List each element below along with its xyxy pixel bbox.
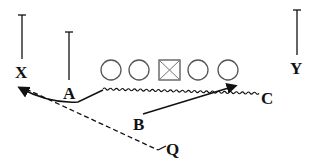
player-b-label: B: [133, 115, 144, 134]
player-a-stem: [65, 32, 73, 80]
player-c-label: C: [261, 89, 273, 108]
play-diagram: X A Y B C: [0, 0, 318, 162]
player-x-label: X: [15, 63, 28, 82]
lineman-circle-3: [188, 60, 208, 80]
route-to-x-arrow: [20, 88, 103, 102]
lineman-circle-1: [101, 60, 121, 80]
player-q-label: Q: [166, 140, 179, 159]
motion-zigzag-route: [103, 88, 259, 94]
pass-tick: [158, 146, 166, 150]
player-y-stem: [293, 10, 301, 55]
lineman-circle-4: [218, 60, 238, 80]
center-square-icon: [159, 60, 180, 80]
player-y-label: Y: [290, 59, 302, 78]
lineman-circle-2: [129, 60, 149, 80]
player-a-label: A: [63, 84, 76, 103]
player-x-stem: [18, 15, 26, 59]
